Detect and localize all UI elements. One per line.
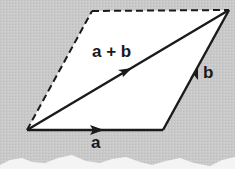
vector-addition-diagram: a + b b a — [0, 0, 235, 169]
label-sum: a + b — [92, 43, 131, 60]
diagram-canvas — [0, 0, 235, 169]
label-a: a — [91, 134, 100, 151]
label-b: b — [203, 64, 213, 81]
